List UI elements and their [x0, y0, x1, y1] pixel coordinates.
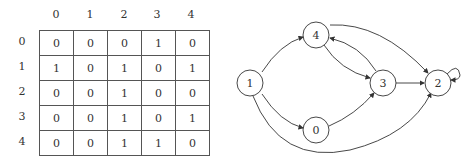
node-label: 0: [313, 124, 320, 137]
edge-1-2: [253, 93, 431, 153]
node-label: 2: [435, 77, 442, 90]
node-label: 3: [380, 77, 387, 90]
edge-4-3: [324, 45, 370, 78]
directed-graph: 1 4 3 0 2: [0, 0, 464, 167]
edge-3-4: [330, 38, 376, 71]
edge-1-0: [262, 94, 303, 128]
edge-1-4: [262, 37, 303, 72]
edge-0-3: [329, 93, 374, 126]
node-label: 1: [247, 77, 254, 90]
node-label: 4: [313, 29, 320, 42]
edge-4-2: [330, 25, 428, 73]
